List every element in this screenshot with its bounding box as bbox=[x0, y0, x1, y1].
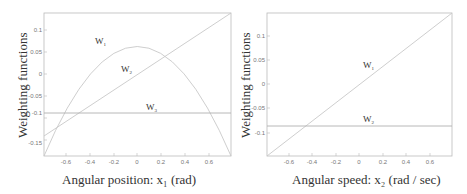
svg-text:0: 0 bbox=[135, 159, 139, 165]
svg-text:0.2: 0.2 bbox=[157, 159, 166, 165]
right-x-ticks: -0.6 -0.4 -0.2 0 0.2 0.4 0.6 bbox=[284, 153, 435, 165]
svg-text:-0.15: -0.15 bbox=[28, 140, 42, 146]
svg-text:0.6: 0.6 bbox=[205, 159, 214, 165]
svg-text:0: 0 bbox=[262, 81, 266, 87]
svg-text:0.05: 0.05 bbox=[30, 49, 42, 55]
svg-text:-0.2: -0.2 bbox=[331, 159, 342, 165]
left-curve-w1 bbox=[44, 47, 231, 157]
left-plot-area: 0.1 0.05 0 -0.05 -0.1 -0.15 -0.6 -0.4 -0… bbox=[0, 0, 240, 194]
svg-text:0.4: 0.4 bbox=[402, 159, 411, 165]
left-curve-w2 bbox=[44, 13, 231, 136]
left-chart: 0.1 0.05 0 -0.05 -0.1 -0.15 -0.6 -0.4 -0… bbox=[0, 0, 240, 194]
svg-text:0.6: 0.6 bbox=[426, 159, 435, 165]
svg-text:-0.1: -0.1 bbox=[255, 130, 266, 136]
svg-text:0: 0 bbox=[39, 71, 43, 77]
svg-text:0.2: 0.2 bbox=[379, 159, 388, 165]
left-x-ticks: -0.6 -0.4 -0.2 0 0.2 0.4 0.6 bbox=[61, 153, 214, 165]
svg-text:0.05: 0.05 bbox=[253, 57, 265, 63]
right-curve-w1 bbox=[267, 13, 452, 156]
right-label-w1: W1 bbox=[363, 60, 375, 71]
svg-text:-0.6: -0.6 bbox=[61, 159, 72, 165]
svg-text:0.4: 0.4 bbox=[181, 159, 190, 165]
svg-text:-0.4: -0.4 bbox=[85, 159, 96, 165]
svg-text:-0.1: -0.1 bbox=[32, 110, 43, 116]
right-x-axis-label: Angular speed: x₂ (rad / sec) bbox=[292, 172, 441, 188]
svg-text:-0.4: -0.4 bbox=[307, 159, 318, 165]
svg-text:-0.2: -0.2 bbox=[109, 159, 120, 165]
svg-text:-0.6: -0.6 bbox=[284, 159, 295, 165]
left-y-axis-label: Weighting functions bbox=[15, 33, 31, 138]
svg-text:0: 0 bbox=[357, 159, 361, 165]
left-label-w3: W3 bbox=[146, 102, 158, 113]
svg-text:0.1: 0.1 bbox=[34, 27, 43, 33]
svg-text:0.1: 0.1 bbox=[257, 33, 266, 39]
left-label-w2: W2 bbox=[121, 64, 133, 75]
right-label-w2: W2 bbox=[363, 114, 375, 125]
left-label-w1: W1 bbox=[95, 36, 107, 47]
right-plot-area: 0.1 0.05 0 -0.05 -0.1 -0.6 -0.4 -0.2 0 0… bbox=[240, 0, 467, 194]
left-axes-frame bbox=[44, 13, 231, 156]
right-chart: 0.1 0.05 0 -0.05 -0.1 -0.6 -0.4 -0.2 0 0… bbox=[240, 0, 467, 194]
right-y-axis-label: Weighting functions bbox=[238, 33, 254, 138]
left-x-axis-label: Angular position: x₁ (rad) bbox=[62, 172, 196, 188]
